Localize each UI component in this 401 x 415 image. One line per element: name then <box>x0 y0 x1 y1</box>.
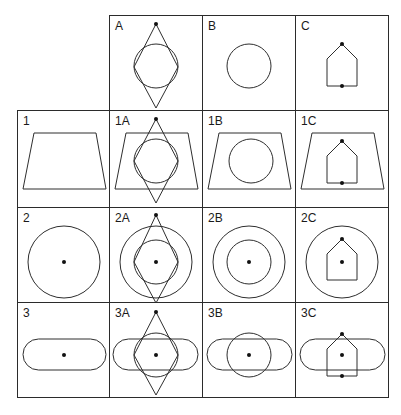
cell-label: C <box>301 19 310 33</box>
cell-1A: 1A <box>109 110 203 208</box>
cell-B: B <box>202 15 296 111</box>
top-dot <box>154 213 158 217</box>
cell-B-drawing <box>203 16 296 111</box>
cell-3A: 3A <box>109 302 203 398</box>
cell-label: 3C <box>301 306 316 320</box>
house-bottom-dot <box>340 181 344 185</box>
cell-label: 3A <box>115 306 130 320</box>
circle-shape <box>227 44 271 88</box>
cell-2C: 2C <box>295 207 389 303</box>
center-dot <box>62 260 66 264</box>
cell-label: 3B <box>208 306 223 320</box>
diamond-shape <box>134 215 178 303</box>
cell-label: A <box>115 19 123 33</box>
cell-2: 2 <box>17 207 110 303</box>
cell-1: 1 <box>17 110 110 208</box>
house-apex-dot <box>340 42 344 46</box>
top-dot <box>154 310 158 314</box>
cell-label: B <box>208 19 216 33</box>
cell-2A: 2A <box>109 207 203 303</box>
trapezoid-shape <box>208 133 291 189</box>
center-dot <box>154 353 158 357</box>
cell-3B: 3B <box>202 302 296 398</box>
cell-A: A <box>109 15 203 111</box>
cell-C: C <box>295 15 389 111</box>
center-dot <box>340 353 344 357</box>
cell-label: 3 <box>23 306 30 320</box>
circle-shape <box>229 139 273 183</box>
top-dot <box>154 22 158 26</box>
cell-label: 1C <box>301 114 316 128</box>
house-apex-dot <box>340 237 344 241</box>
cell-3-drawing <box>18 303 110 398</box>
house-apex-dot <box>340 332 344 336</box>
circle-shape <box>134 44 178 88</box>
cell-label: 2A <box>115 211 130 225</box>
cell-2B: 2B <box>202 207 296 303</box>
house-shape <box>327 141 357 183</box>
trapezoid-shape <box>115 133 198 189</box>
center-dot <box>247 260 251 264</box>
center-dot <box>62 353 66 357</box>
cell-1B: 1B <box>202 110 296 208</box>
cell-2-drawing <box>18 208 110 303</box>
cell-label: 1A <box>115 114 130 128</box>
center-dot <box>340 260 344 264</box>
house-shape <box>327 44 357 86</box>
cell-1C: 1C <box>295 110 389 208</box>
cell-3: 3 <box>17 302 110 398</box>
house-shape <box>327 239 357 280</box>
cell-A-drawing <box>110 16 203 111</box>
cell-1-drawing <box>18 111 110 208</box>
trapezoid-shape <box>23 133 106 189</box>
diamond-shape <box>134 119 178 203</box>
diamond-shape <box>134 24 178 108</box>
cell-label: 1B <box>208 114 223 128</box>
cell-label: 2 <box>23 211 30 225</box>
house-bottom-dot <box>340 84 344 88</box>
cell-label: 2C <box>301 211 316 225</box>
cell-3C: 3C <box>295 302 389 398</box>
house-apex-dot <box>340 139 344 143</box>
cell-label: 1 <box>23 114 30 128</box>
top-dot <box>154 117 158 121</box>
center-dot <box>154 260 158 264</box>
house-bottom-dot <box>340 374 344 378</box>
cell-label: 2B <box>208 211 223 225</box>
circle-shape <box>134 139 178 183</box>
center-dot <box>247 353 251 357</box>
